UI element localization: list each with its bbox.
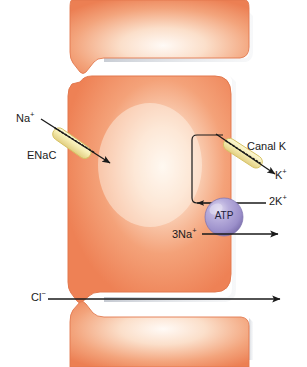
label-enac: ENaC — [27, 150, 56, 161]
main-cell — [68, 76, 231, 303]
diagram-canvas — [0, 0, 307, 367]
label-atp: ATP — [205, 211, 243, 221]
cell-transport-figure: Na+ ENaC Canal K K+ 2K+ 3Na+ Cl− ATP — [0, 0, 307, 367]
top-neighbor-cell — [70, 0, 249, 74]
label-2k-influx: 2K+ — [269, 196, 287, 207]
label-chloride: Cl− — [31, 292, 46, 303]
label-k-efflux: K+ — [275, 170, 287, 181]
label-canal-k: Canal K — [247, 141, 286, 152]
label-3na-efflux: 3Na+ — [172, 229, 197, 240]
bottom-neighbor-cell — [70, 301, 249, 367]
label-na-apical: Na+ — [16, 113, 34, 124]
